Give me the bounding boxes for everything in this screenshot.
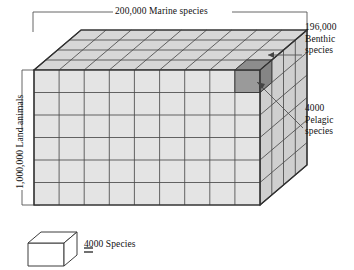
pelagic-word-2: species (305, 126, 334, 138)
pelagic-species-label: 4000 Pelagic species (305, 103, 334, 138)
species-volume-figure: 200,000 Marine species 1,000,000 Land an… (0, 0, 354, 270)
benthic-species-label: 196,000 Benthic species (305, 22, 337, 57)
pelagic-count: 4000 (305, 103, 334, 115)
pelagic-word-1: Pelagic (305, 115, 334, 127)
legend-cube (28, 232, 77, 266)
benthic-word-1: Benthic (305, 34, 337, 46)
legend-text: 4000 Species (84, 239, 136, 249)
land-animals-label: 1,000,000 Land animals (15, 77, 27, 207)
legend-cube-front (28, 243, 64, 266)
benthic-word-2: species (305, 45, 337, 57)
legend-label: 4000 Species (84, 239, 136, 251)
highlight-front (235, 70, 260, 93)
main-block (34, 30, 307, 205)
benthic-count: 196,000 (305, 22, 337, 34)
isometric-block-diagram (0, 0, 354, 270)
marine-species-label: 200,000 Marine species (115, 6, 208, 18)
